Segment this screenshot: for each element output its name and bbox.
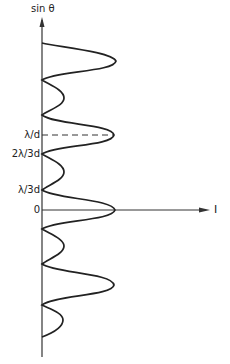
interference-diagram: sin θ I λ/d 2λ/3d λ/3d 0 [0,0,230,364]
tick-label-lambda-d: λ/d [24,130,40,140]
y-axis-label: sin θ [31,4,55,14]
x-axis-label: I [214,204,217,215]
tick-label-lambda-3d: λ/3d [18,185,40,195]
tick-label-zero: 0 [34,205,40,215]
tick-label-2lambda-3d: 2λ/3d [12,149,40,159]
y-axis-arrow-icon [40,17,45,27]
intensity-plot [0,0,230,364]
intensity-curve [42,43,116,337]
x-axis-arrow-icon [199,208,210,213]
